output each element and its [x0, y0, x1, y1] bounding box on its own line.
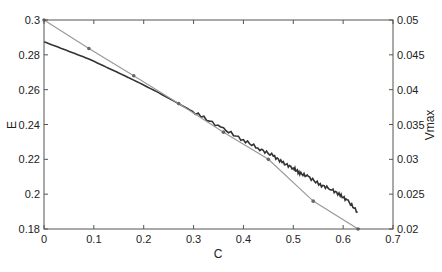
right-y-tick-label: 0.045	[397, 49, 425, 61]
right-y-tick-label: 0.035	[397, 119, 425, 131]
x-tick-label: 0	[41, 233, 47, 245]
left-y-tick-label: 0.3	[25, 14, 40, 26]
dual-axis-line-chart: 00.10.20.30.40.50.60.7 0.180.20.220.240.…	[0, 0, 442, 272]
left-y-tick-label: 0.26	[19, 84, 40, 96]
data-marker	[132, 74, 136, 78]
data-marker	[222, 130, 226, 134]
series-line-e	[44, 42, 358, 212]
right-y-tick-label: 0.02	[397, 223, 418, 235]
x-tick-label: 0.6	[335, 233, 350, 245]
right-y-tick-label: 0.05	[397, 14, 418, 26]
x-axis-ticks: 00.10.20.30.40.50.60.7	[41, 20, 401, 245]
x-tick-label: 0.1	[86, 233, 101, 245]
series-line-vmax	[44, 20, 358, 229]
data-marker	[177, 102, 181, 106]
data-marker	[311, 199, 315, 203]
left-y-tick-label: 0.2	[25, 188, 40, 200]
plot-area	[42, 18, 360, 231]
data-marker	[87, 47, 91, 51]
data-marker	[267, 158, 271, 162]
right-y-tick-label: 0.04	[397, 84, 418, 96]
right-y-tick-label: 0.025	[397, 188, 425, 200]
right-y-tick-label: 0.03	[397, 153, 418, 165]
left-y-tick-label: 0.28	[19, 49, 40, 61]
x-tick-label: 0.3	[186, 233, 201, 245]
left-y-axis-label: E	[5, 121, 19, 129]
left-y-tick-label: 0.24	[19, 119, 40, 131]
x-tick-label: 0.5	[286, 233, 301, 245]
x-tick-label: 0.2	[136, 233, 151, 245]
left-y-tick-label: 0.18	[19, 223, 40, 235]
x-axis-label: C	[214, 247, 223, 261]
left-y-tick-label: 0.22	[19, 153, 40, 165]
x-tick-label: 0.4	[236, 233, 251, 245]
right-y-axis-ticks: 0.020.0250.030.0350.040.0450.05	[389, 14, 425, 235]
right-y-axis-label: Vmax	[423, 110, 437, 141]
